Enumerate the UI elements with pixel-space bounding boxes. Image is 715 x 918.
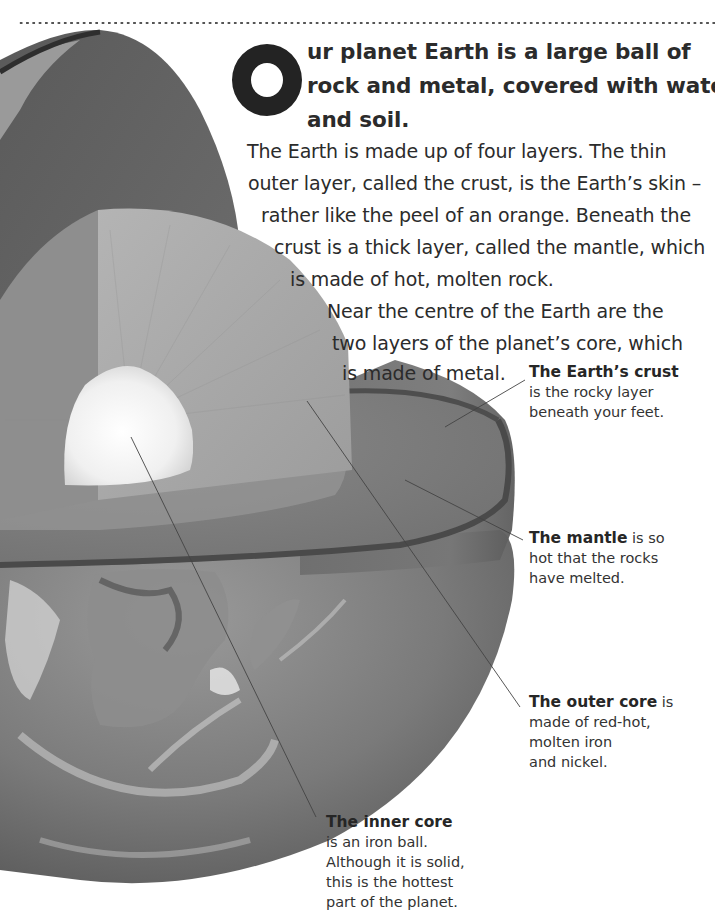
callout-mantle: The mantle is so hot that the rocks have… [529,528,665,588]
callout-outer-core: The outer core is made of red-hot, molte… [529,692,673,772]
callout-text: beneath your feet. [529,402,679,422]
callout-title: The Earth’s crust [529,363,679,381]
lead-paragraph-line: rock and metal, covered with water [307,73,715,98]
body-paragraph-line: two layers of the planet’s core, which [332,332,683,354]
callout-text: have melted. [529,568,665,588]
callout-text: is an iron ball. [326,832,465,852]
callout-title: The inner core [326,813,452,831]
lead-paragraph-line: ur planet Earth is a large ball of [307,39,691,64]
callout-text: hot that the rocks [529,548,665,568]
body-paragraph-line: rather like the peel of an orange. Benea… [261,204,691,226]
body-paragraph-line: is made of metal. [342,362,506,384]
callout-text: and nickel. [529,752,673,772]
body-paragraph-line: crust is a thick layer, called the mantl… [274,236,705,258]
callout-title: The outer core [529,693,657,711]
earth-cutaway-illustration [0,0,715,918]
body-paragraph-line: outer layer, called the crust, is the Ea… [248,172,701,194]
drop-cap-letter-o [232,44,302,116]
lead-paragraph-line: and soil. [307,107,409,132]
callout-text: made of red-hot, [529,712,673,732]
callout-text: Although it is solid, [326,852,465,872]
callout-crust: The Earth’s crust is the rocky layer ben… [529,362,679,422]
callout-text: part of the planet. [326,892,465,912]
callout-text: is the rocky layer [529,382,679,402]
callout-title-suffix: is [657,694,673,710]
body-paragraph-line: is made of hot, molten rock. [290,268,554,290]
dotted-divider [18,21,715,25]
callout-text: molten iron [529,732,673,752]
callout-inner-core: The inner core is an iron ball. Although… [326,812,465,912]
body-paragraph-line: The Earth is made up of four layers. The… [247,140,666,162]
callout-title: The mantle [529,529,627,547]
body-paragraph-line: Near the centre of the Earth are the [327,300,663,322]
callout-text: this is the hottest [326,872,465,892]
callout-title-suffix: is so [627,530,664,546]
